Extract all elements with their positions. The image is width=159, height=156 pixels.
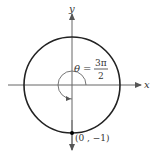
point-label: (0 , −1) [75, 133, 110, 143]
theta-symbol: θ [74, 63, 80, 74]
point-0-neg1 [70, 131, 74, 135]
unit-circle-diagram: y x θ = 3π 2 (0 , −1) [0, 0, 159, 156]
angle-denominator: 2 [98, 71, 104, 81]
y-axis-label: y [68, 3, 75, 14]
equals-sign: = [83, 63, 91, 74]
x-axis-label: x [144, 79, 150, 90]
angle-numerator: 3π [95, 58, 107, 68]
